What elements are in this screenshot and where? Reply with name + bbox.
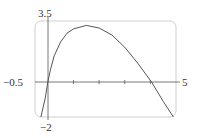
x-min-label: −0.5 — [3, 76, 23, 88]
y-max-label: 3.5 — [38, 7, 52, 19]
x-max-label: 5 — [182, 76, 188, 88]
viewing-window-frame — [35, 21, 176, 117]
y-min-label: −2 — [40, 121, 52, 133]
chart: 3.5 −2 −0.5 5 — [0, 0, 197, 138]
function-curve — [41, 25, 174, 117]
